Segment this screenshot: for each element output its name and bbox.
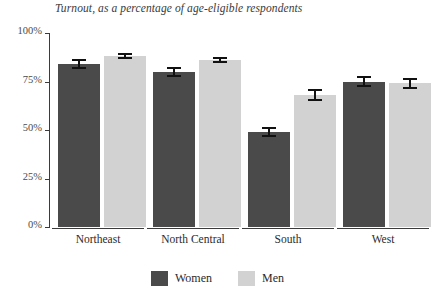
error-bar-cap-bottom <box>118 57 132 59</box>
legend-item-men[interactable]: Men <box>238 271 284 286</box>
bar-group-bars <box>58 33 146 227</box>
error-bar <box>167 67 181 77</box>
bar-women-northeast[interactable] <box>58 64 100 227</box>
error-bar <box>308 89 322 101</box>
x-axis-label: West <box>327 233 435 245</box>
error-bar-cap-bottom <box>167 75 181 77</box>
bar-group <box>343 33 431 227</box>
error-bar <box>262 127 276 137</box>
x-axis-segment <box>242 228 334 229</box>
x-axis-segment <box>337 228 429 229</box>
bar-men-west[interactable] <box>389 83 431 227</box>
bar-group <box>58 33 146 227</box>
error-bar-cap-top <box>213 57 227 59</box>
plot-area <box>50 33 430 227</box>
x-axis-segment <box>147 228 239 229</box>
bar-group-bars <box>248 33 336 227</box>
error-bar-cap-top <box>167 67 181 69</box>
error-bar <box>357 76 371 88</box>
error-bar-cap-top <box>308 89 322 91</box>
bar-men-north-central[interactable] <box>199 60 241 227</box>
y-tick-label: 0% <box>28 219 42 230</box>
y-tick-label: 25% <box>23 171 42 182</box>
bar-women-north-central[interactable] <box>153 72 195 227</box>
error-bar-cap-bottom <box>213 61 227 63</box>
bar-group-bars <box>343 33 431 227</box>
error-bar <box>213 57 227 63</box>
bar-women-west[interactable] <box>343 82 385 228</box>
legend-label-men: Men <box>262 271 284 286</box>
error-bar-cap-bottom <box>403 87 417 89</box>
bar-women-south[interactable] <box>248 132 290 227</box>
bar-men-northeast[interactable] <box>104 56 146 227</box>
error-bar-cap-bottom <box>357 85 371 87</box>
error-bar <box>403 78 417 90</box>
legend-item-women[interactable]: Women <box>151 271 212 286</box>
y-tick-label: 100% <box>18 25 43 36</box>
error-bar <box>72 59 86 69</box>
x-axis-segment <box>52 228 144 229</box>
error-bar-cap-top <box>72 59 86 61</box>
error-bar-cap-top <box>262 127 276 129</box>
bar-group-bars <box>153 33 241 227</box>
error-bar-cap-top <box>403 78 417 80</box>
legend-swatch-women-icon <box>151 271 168 286</box>
turnout-bar-chart: Turnout, as a percentage of age-eligible… <box>0 0 435 306</box>
error-bar <box>118 53 132 59</box>
y-tick-label: 75% <box>23 74 42 85</box>
bar-group <box>248 33 336 227</box>
y-tick-mark <box>45 227 50 228</box>
error-bar-cap-bottom <box>262 135 276 137</box>
error-bar-cap-top <box>118 53 132 55</box>
legend-swatch-men-icon <box>238 271 255 286</box>
error-bar-cap-top <box>357 76 371 78</box>
chart-legend: Women Men <box>0 271 435 286</box>
chart-title: Turnout, as a percentage of age-eligible… <box>55 2 405 14</box>
error-bar-cap-bottom <box>308 99 322 101</box>
bar-group <box>153 33 241 227</box>
error-bar-cap-bottom <box>72 67 86 69</box>
y-tick-label: 50% <box>23 122 42 133</box>
legend-label-women: Women <box>175 271 212 286</box>
bar-men-south[interactable] <box>294 95 336 227</box>
